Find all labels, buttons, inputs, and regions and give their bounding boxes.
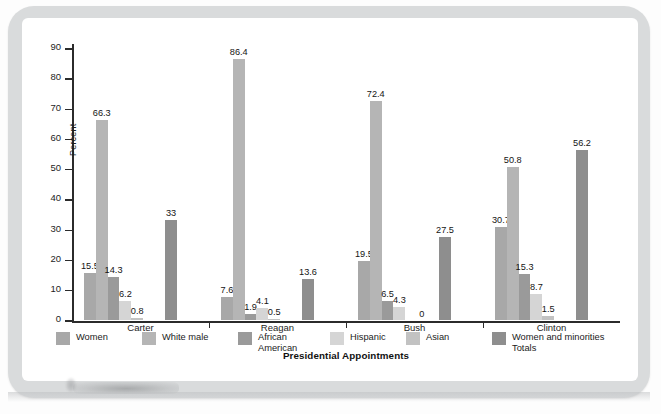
bar[interactable]: 6.5 (382, 301, 394, 321)
bar-slot[interactable]: 7.6 (221, 42, 233, 320)
bar[interactable]: 7.6 (221, 297, 233, 320)
legend-swatch (238, 332, 252, 345)
legend-swatch (56, 332, 70, 345)
bar-chart: 9080706050403020100 Percent 15.566.314.3… (22, 18, 638, 381)
y-axis-tick-mark: 80 (65, 78, 72, 79)
bar[interactable]: 8.7 (530, 294, 542, 320)
bar[interactable]: 4.1 (256, 308, 268, 320)
bar-slot[interactable]: 6.5 (382, 42, 394, 320)
bar-slot[interactable]: 0.8 (131, 42, 143, 320)
bar-group: 7.686.41.94.10.513.6Reagan (209, 42, 346, 320)
legend-item[interactable]: White male (142, 332, 238, 345)
y-axis-tick-label: 70 (50, 102, 61, 113)
bar[interactable]: 56.2 (576, 150, 588, 320)
bar[interactable]: 1.9 (245, 314, 257, 320)
bar-slot[interactable]: 6.2 (119, 42, 131, 320)
bar-slot[interactable]: 86.4 (233, 42, 245, 320)
legend-label: Women (76, 332, 108, 343)
bar-slot[interactable]: 15.3 (519, 42, 531, 320)
bar-slot[interactable]: 27.5 (439, 42, 451, 320)
legend-item[interactable]: Women and minorities Totals (492, 332, 604, 354)
legend-label: Asian (426, 332, 449, 343)
bar-slot[interactable]: 33 (165, 42, 177, 320)
legend-item[interactable]: Hispanic (330, 332, 406, 345)
chart-legend: WomenWhite maleAfrican AmericanHispanicA… (56, 332, 608, 354)
legend-item[interactable]: Asian (406, 332, 492, 345)
bar-value-label: 7.6 (221, 285, 234, 295)
bar[interactable]: 15.3 (519, 274, 531, 320)
bar[interactable]: 50.8 (507, 167, 519, 321)
page-bottom-shadow (8, 392, 650, 402)
bar[interactable]: 30.7 (495, 227, 507, 320)
bar-value-label: 27.5 (436, 225, 454, 235)
bar-value-label: 13.6 (299, 267, 317, 277)
y-axis-tick-label: 90 (50, 41, 61, 52)
bar[interactable]: 0.8 (131, 318, 143, 320)
y-axis-tick-label: 0 (56, 313, 61, 324)
bar[interactable]: 66.3 (96, 120, 108, 320)
bar-group-bars: 7.686.41.94.10.513.6 (221, 42, 314, 320)
bar-slot[interactable]: 50.8 (507, 42, 519, 320)
legend-item[interactable]: African American (238, 332, 330, 354)
y-axis-tick-mark: 0 (65, 320, 72, 321)
bar-slot[interactable]: 4.3 (393, 42, 405, 320)
bar[interactable]: 27.5 (439, 237, 451, 320)
y-axis-tick-label: 60 (50, 132, 61, 143)
bar-slot[interactable]: 0.5 (268, 42, 280, 320)
bar-slot[interactable]: 14.3 (108, 42, 120, 320)
y-axis-tick-label: 30 (50, 223, 61, 234)
bar-slot[interactable]: 1.9 (245, 42, 257, 320)
y-axis-tick-mark: 70 (65, 109, 72, 110)
bar[interactable]: 33 (165, 220, 177, 320)
bar[interactable]: 14.3 (108, 277, 120, 320)
bar-group: 15.566.314.36.20.833Carter (72, 42, 209, 320)
bar[interactable]: 6.2 (119, 301, 131, 320)
bar-slot[interactable]: 4.1 (256, 42, 268, 320)
bar-value-label: 0 (419, 309, 424, 319)
bar[interactable]: 86.4 (233, 59, 245, 320)
bar-slot[interactable]: 19.5 (358, 42, 370, 320)
bar[interactable]: 4.3 (393, 307, 405, 320)
y-axis-tick-mark: 10 (65, 290, 72, 291)
bar[interactable]: 72.4 (370, 101, 382, 320)
bar[interactable]: 0.5 (268, 319, 280, 321)
legend-swatch (330, 332, 344, 345)
bar-value-label: 4.1 (256, 296, 269, 306)
bar-value-label: 56.2 (573, 138, 591, 148)
legend-item[interactable]: Women (56, 332, 142, 345)
bar[interactable]: 13.6 (302, 279, 314, 320)
bar-value-label: 4.3 (393, 295, 406, 305)
bar-slot[interactable]: 66.3 (96, 42, 108, 320)
bar[interactable]: 15.5 (84, 273, 96, 320)
bar-value-label: 33 (166, 208, 176, 218)
y-axis-tick-mark: 30 (65, 230, 72, 231)
bar-slot[interactable]: 8.7 (530, 42, 542, 320)
bar[interactable]: 19.5 (358, 261, 370, 320)
y-axis-tick-mark: 20 (65, 260, 72, 261)
bar-slot[interactable]: 13.6 (302, 42, 314, 320)
y-axis-tick-label: 80 (50, 71, 61, 82)
legend-swatch (406, 332, 420, 345)
legend-label: Hispanic (350, 332, 386, 343)
y-axis-tick-mark: 50 (65, 169, 72, 170)
y-axis-tick-label: 40 (50, 192, 61, 203)
bar-slot[interactable]: 72.4 (370, 42, 382, 320)
y-axis-tick-label: 50 (50, 162, 61, 173)
bar-slot[interactable]: 56.2 (576, 42, 588, 320)
y-axis-tick-label: 20 (50, 253, 61, 264)
legend-label: White male (162, 332, 209, 343)
plot-area: 9080706050403020100 Percent 15.566.314.3… (72, 44, 620, 322)
bar-group: 30.750.815.38.71.556.2Clinton (483, 42, 620, 320)
bar[interactable]: 1.5 (542, 316, 554, 321)
bar-value-label: 6.2 (119, 289, 132, 299)
legend-swatch (142, 332, 156, 345)
bar-slot[interactable]: 1.5 (542, 42, 554, 320)
legend-label: Women and minorities Totals (512, 332, 604, 354)
bar-slot[interactable]: 15.5 (84, 42, 96, 320)
bar-slot[interactable]: 30.7 (495, 42, 507, 320)
bar-slot[interactable]: 0 (405, 42, 417, 320)
bar-value-label: 0.5 (268, 307, 281, 317)
scanned-figure-page: 9080706050403020100 Percent 15.566.314.3… (0, 0, 661, 414)
y-axis-tick-mark: 40 (65, 199, 72, 200)
bar-group-bars: 15.566.314.36.20.833 (84, 42, 177, 320)
